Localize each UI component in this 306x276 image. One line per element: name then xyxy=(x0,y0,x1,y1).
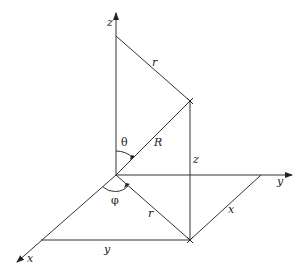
coordinate-diagram: z y x r θ R z φ r x y xyxy=(0,0,306,276)
phi-label: φ xyxy=(111,194,119,207)
x-segment-line xyxy=(190,175,261,240)
R-label: R xyxy=(153,136,162,149)
y-segment-label: y xyxy=(103,243,111,256)
x-axis xyxy=(17,175,116,262)
z-axis-label: z xyxy=(106,16,113,29)
phi-arc xyxy=(103,186,128,192)
theta-arc xyxy=(116,151,133,158)
z-vertical-label: z xyxy=(192,153,199,166)
theta-label: θ xyxy=(121,136,128,149)
r-bottom-label: r xyxy=(148,207,154,220)
y-axis-label: y xyxy=(276,175,284,188)
x-axis-label: x xyxy=(27,252,34,265)
r-top-label: r xyxy=(152,56,158,69)
x-segment-label: x xyxy=(228,203,235,216)
